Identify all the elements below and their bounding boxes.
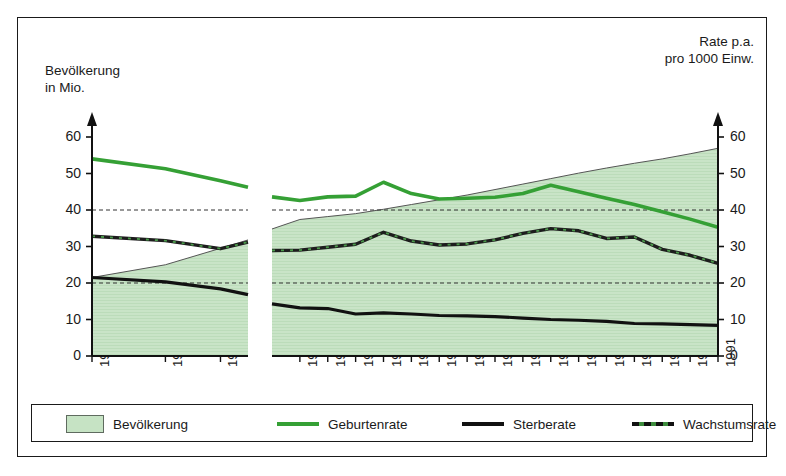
x-tick-1982: 1982 bbox=[472, 338, 487, 367]
right-tick-40: 40 bbox=[730, 201, 746, 217]
x-tick-1966: 1966 bbox=[225, 338, 240, 367]
left-tick-0: 0 bbox=[73, 347, 81, 363]
x-tick-1985: 1985 bbox=[556, 338, 571, 367]
legend-item-wachstumsrate[interactable]: Wachstumsrate bbox=[632, 415, 776, 433]
x-tick-1960: 1960 bbox=[170, 338, 185, 367]
right-axis-title-line2: pro 1000 Einw. bbox=[665, 50, 754, 67]
legend-dashed-line-icon bbox=[632, 422, 674, 426]
legend-area-swatch bbox=[66, 415, 104, 433]
x-tick-1978: 1978 bbox=[361, 338, 376, 367]
legend-label: Wachstumsrate bbox=[683, 417, 776, 432]
x-tick-1983: 1983 bbox=[500, 338, 515, 367]
left-axis-title-line2: in Mio. bbox=[45, 79, 120, 96]
x-tick-1979: 1979 bbox=[389, 338, 404, 367]
right-tick-50: 50 bbox=[730, 165, 746, 181]
right-tick-30: 30 bbox=[730, 238, 746, 254]
x-tick-1989: 1989 bbox=[667, 338, 682, 367]
left-axis-title: Bevölkerung in Mio. bbox=[45, 62, 120, 96]
left-tick-60: 60 bbox=[65, 128, 81, 144]
left-tick-40: 40 bbox=[65, 201, 81, 217]
chart-legend: BevölkerungGeburtenrateSterberateWachstu… bbox=[31, 404, 753, 442]
x-tick-1952: 1952 bbox=[97, 338, 112, 367]
x-tick-1977: 1977 bbox=[333, 338, 348, 367]
chart-page: Bevölkerung in Mio. Rate p.a. pro 1000 E… bbox=[0, 0, 786, 476]
legend-green-line-icon bbox=[277, 422, 319, 426]
legend-label: Geburtenrate bbox=[328, 417, 408, 432]
legend-item-geburtenrate[interactable]: Geburtenrate bbox=[277, 415, 408, 433]
legend-black-line-icon bbox=[462, 422, 504, 426]
right-tick-10: 10 bbox=[730, 311, 746, 327]
legend-label: Bevölkerung bbox=[113, 417, 188, 432]
x-tick-1976: 1976 bbox=[305, 338, 320, 367]
left-tick-30: 30 bbox=[65, 238, 81, 254]
right-axis-title-line1: Rate p.a. bbox=[665, 33, 754, 50]
legend-item-sterberate[interactable]: Sterberate bbox=[462, 415, 576, 433]
x-tick-1991: 1991 bbox=[723, 338, 738, 367]
right-tick-60: 60 bbox=[730, 128, 746, 144]
x-tick-1981: 1981 bbox=[444, 338, 459, 367]
chart-frame bbox=[17, 17, 767, 457]
legend-item-bevlkerung[interactable]: Bevölkerung bbox=[66, 415, 188, 433]
right-tick-20: 20 bbox=[730, 274, 746, 290]
x-tick-1990: 1990 bbox=[695, 338, 710, 367]
left-axis-title-line1: Bevölkerung bbox=[45, 62, 120, 79]
left-tick-50: 50 bbox=[65, 165, 81, 181]
x-tick-1984: 1984 bbox=[528, 338, 543, 367]
right-axis-title: Rate p.a. pro 1000 Einw. bbox=[665, 33, 754, 67]
x-tick-1988: 1988 bbox=[639, 338, 654, 367]
x-tick-1987: 1987 bbox=[612, 338, 627, 367]
left-tick-20: 20 bbox=[65, 274, 81, 290]
x-tick-1980: 1980 bbox=[416, 338, 431, 367]
left-tick-10: 10 bbox=[65, 311, 81, 327]
x-tick-1986: 1986 bbox=[584, 338, 599, 367]
legend-label: Sterberate bbox=[513, 417, 576, 432]
